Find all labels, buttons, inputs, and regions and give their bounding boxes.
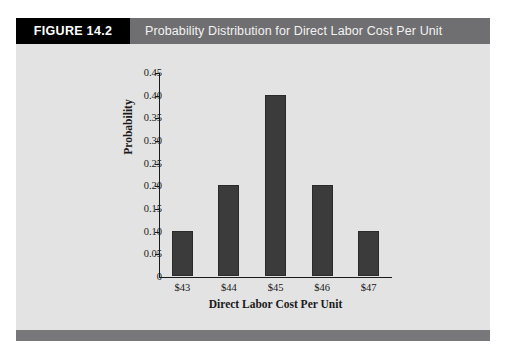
x-axis-line (159, 277, 392, 278)
y-axis-tick-mark (155, 141, 160, 142)
bar (172, 231, 193, 276)
figure-body-panel: Probability 0.450.400.350.300.250.200.15… (16, 44, 490, 330)
figure-number-tag: FIGURE 14.2 (16, 18, 130, 44)
y-axis-line (159, 73, 160, 278)
y-axis-tick-mark (155, 209, 160, 210)
y-axis-title: Probability (122, 82, 134, 172)
x-axis-tick-labels: $43$44$45$46$47 (159, 282, 392, 298)
figure-header: FIGURE 14.2 Probability Distribution for… (16, 18, 490, 44)
x-axis-tick-label: $44 (221, 282, 237, 293)
x-axis-tick-label: $47 (361, 282, 377, 293)
y-axis-tick-mark (155, 232, 160, 233)
bar (312, 185, 333, 276)
y-axis-tick-mark (155, 254, 160, 255)
bar-chart: Probability 0.450.400.350.300.250.200.15… (16, 44, 490, 330)
figure-container: FIGURE 14.2 Probability Distribution for… (0, 0, 506, 359)
figure-title: Probability Distribution for Direct Labo… (130, 18, 490, 44)
figure-footer-bar (16, 330, 490, 341)
y-axis-tick-mark (155, 118, 160, 119)
plot-area (159, 73, 392, 277)
y-axis-tick-mark (155, 186, 160, 187)
x-axis-tick-label: $45 (268, 282, 284, 293)
y-axis-tick-labels: 0.450.400.350.300.250.200.150.100.050 (134, 66, 162, 278)
y-axis-tick-mark (155, 96, 160, 97)
x-axis-tick-label: $43 (174, 282, 190, 293)
bar (358, 231, 379, 276)
y-axis-tick-mark (155, 73, 160, 74)
bar (218, 185, 239, 276)
bar (265, 95, 286, 276)
x-axis-tick-label: $46 (314, 282, 330, 293)
x-axis-title: Direct Labor Cost Per Unit (159, 298, 392, 310)
y-axis-tick-mark (155, 164, 160, 165)
